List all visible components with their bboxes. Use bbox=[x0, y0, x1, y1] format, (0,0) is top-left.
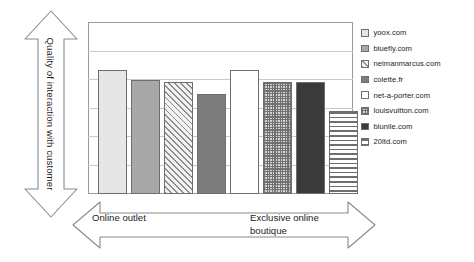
plot-area bbox=[88, 22, 353, 194]
legend-item-yoox-com[interactable]: yoox.com bbox=[361, 25, 473, 41]
legend-item-colette-fr[interactable]: colette.fr bbox=[361, 72, 473, 88]
chart-figure: Quality of interaction with customer Onl… bbox=[0, 0, 474, 262]
legend-swatch-icon bbox=[361, 60, 369, 68]
legend-item-net-a-porter-com[interactable]: net-a-porter.com bbox=[361, 87, 473, 103]
legend-item-label: blunile.com bbox=[374, 122, 413, 131]
legend-item-label: yoox.com bbox=[374, 28, 407, 37]
legend-swatch-icon bbox=[361, 29, 369, 37]
chart-legend: yoox.com bluefly.com neimanmarcus.com co… bbox=[361, 25, 473, 150]
legend-item-label: net-a-porter.com bbox=[374, 91, 431, 100]
legend-item-neimanmarcus-com[interactable]: neimanmarcus.com bbox=[361, 56, 473, 72]
legend-item-louisvuitton-com[interactable]: louisvuitton.com bbox=[361, 103, 473, 119]
legend-item-bluefly-com[interactable]: bluefly.com bbox=[361, 41, 473, 57]
legend-swatch-icon bbox=[361, 91, 369, 99]
bar-louisvuitton-com[interactable] bbox=[263, 82, 292, 194]
legend-item-label: neimanmarcus.com bbox=[374, 59, 441, 68]
y-axis-arrow: Quality of interaction with customer bbox=[22, 8, 80, 220]
legend-item-label: bluefly.com bbox=[374, 44, 412, 53]
bar-20ltd-com[interactable] bbox=[329, 111, 358, 194]
legend-item-label: louisvuitton.com bbox=[374, 106, 429, 115]
bar-colette-fr[interactable] bbox=[197, 94, 226, 194]
bar-net-a-porter-com[interactable] bbox=[230, 70, 259, 195]
legend-swatch-icon bbox=[361, 123, 369, 131]
bar-neimanmarcus-com[interactable] bbox=[164, 82, 193, 194]
legend-swatch-icon bbox=[361, 76, 369, 84]
bar-yoox-com[interactable] bbox=[98, 70, 127, 195]
legend-item-label: colette.fr bbox=[374, 75, 404, 84]
legend-item-label: 20ltd.com bbox=[374, 137, 407, 146]
x-axis-right-label: Exclusive online boutique bbox=[250, 212, 346, 237]
legend-item-blunile-com[interactable]: blunile.com bbox=[361, 119, 473, 135]
legend-item-20ltd-com[interactable]: 20ltd.com bbox=[361, 134, 473, 150]
x-axis-left-label: Online outlet bbox=[92, 212, 146, 223]
bar-bluefly-com[interactable] bbox=[131, 80, 160, 195]
legend-swatch-icon bbox=[361, 45, 369, 53]
bars-layer bbox=[88, 22, 353, 194]
legend-swatch-icon bbox=[361, 107, 369, 115]
bar-blunile-com[interactable] bbox=[296, 82, 325, 194]
legend-swatch-icon bbox=[361, 138, 369, 146]
x-axis-arrow: Online outlet Exclusive online boutique bbox=[70, 199, 378, 251]
y-axis-arrow-shape bbox=[22, 8, 80, 220]
